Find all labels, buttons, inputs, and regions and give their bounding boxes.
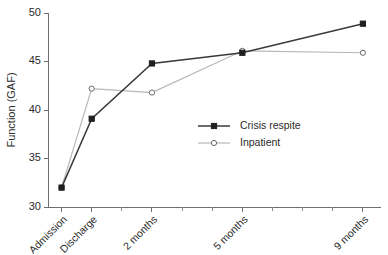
x-tick-label: 5 months: [211, 213, 250, 252]
x-tick-label: 9 months: [331, 213, 370, 252]
data-series-group: [59, 21, 366, 190]
chart-legend: Crisis respiteInpatient: [198, 119, 301, 148]
y-axis-title: Function (GAF): [5, 72, 17, 147]
legend-swatch-marker: [211, 123, 216, 128]
data-point-marker: [360, 50, 365, 55]
data-point-marker: [240, 50, 245, 55]
y-tick-label: 35: [29, 151, 41, 163]
line-chart-canvas: 3035404550 AdmissionDischarge2 months5 m…: [0, 0, 388, 255]
data-point-marker: [59, 185, 64, 190]
data-point-marker: [149, 90, 154, 95]
series-line: [62, 51, 363, 188]
y-tick-label: 40: [29, 103, 41, 115]
data-point-marker: [89, 116, 94, 121]
legend-label: Inpatient: [240, 136, 280, 148]
x-tick-label: 2 months: [120, 213, 159, 252]
data-point-marker: [149, 61, 154, 66]
series-line: [62, 24, 363, 188]
legend-swatch-marker: [211, 140, 216, 145]
y-tick-label: 30: [29, 200, 41, 212]
y-tick-label: 45: [29, 54, 41, 66]
legend-label: Crisis respite: [240, 119, 301, 131]
data-point-marker: [360, 21, 365, 26]
y-tick-label: 50: [29, 6, 41, 18]
chart-figure: 3035404550 AdmissionDischarge2 months5 m…: [0, 0, 388, 255]
data-point-marker: [89, 86, 94, 91]
x-axis: AdmissionDischarge2 months5 months9 mont…: [26, 207, 381, 255]
y-axis: 3035404550: [29, 6, 48, 212]
